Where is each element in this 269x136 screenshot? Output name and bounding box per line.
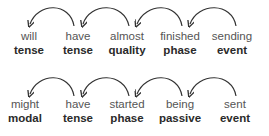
token: sent event xyxy=(220,97,250,125)
token-label: event xyxy=(220,111,250,125)
token: being passive xyxy=(159,97,201,125)
token-word: being xyxy=(159,97,201,111)
token-word: almost xyxy=(108,29,145,43)
arc-finished-almost xyxy=(137,8,182,26)
token-word: have xyxy=(63,97,93,111)
arc-started-have xyxy=(83,78,129,96)
token: started phase xyxy=(109,97,144,125)
token-label: quality xyxy=(108,43,145,57)
token-label: tense xyxy=(63,111,93,125)
arc-being-started xyxy=(137,78,182,96)
token-word: sending xyxy=(212,29,252,43)
token-word: sent xyxy=(220,97,250,111)
token: finished phase xyxy=(160,29,200,57)
arc-almost-have xyxy=(83,8,129,26)
arc-have-will xyxy=(30,8,74,26)
token: have tense xyxy=(63,97,93,125)
token-word: finished xyxy=(160,29,200,43)
arc-sending-finished xyxy=(190,8,236,26)
token-word: started xyxy=(109,97,144,111)
token: almost quality xyxy=(108,29,145,57)
token: sending event xyxy=(212,29,252,57)
token-word: have xyxy=(63,29,93,43)
arc-have-might xyxy=(30,78,74,96)
token-word: will xyxy=(14,29,44,43)
token-label: phase xyxy=(109,111,144,125)
token-label: phase xyxy=(160,43,200,57)
token-label: tense xyxy=(63,43,93,57)
token-label: passive xyxy=(159,111,201,125)
arc-sent-being xyxy=(190,78,236,96)
token-label: tense xyxy=(14,43,44,57)
token-label: event xyxy=(212,43,252,57)
token-label: modal xyxy=(8,111,42,125)
token: have tense xyxy=(63,29,93,57)
token: will tense xyxy=(14,29,44,57)
token: might modal xyxy=(8,97,42,125)
token-word: might xyxy=(8,97,42,111)
